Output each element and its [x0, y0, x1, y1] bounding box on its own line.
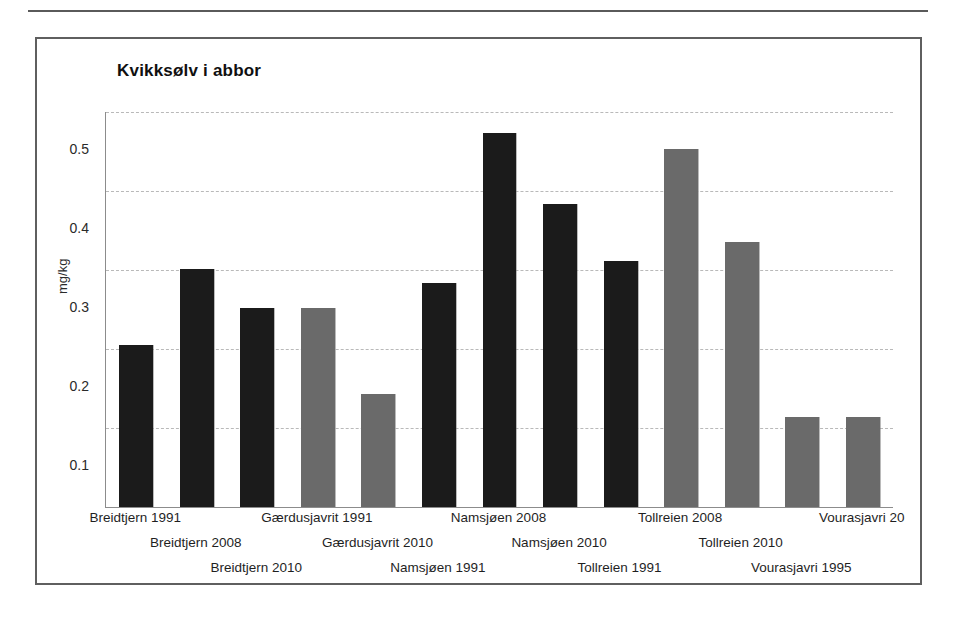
figure-frame: Kvikksølv i abbor 0.50.40.30.20.1 mg/kg …	[35, 37, 922, 585]
bar	[846, 417, 880, 507]
bar	[483, 133, 517, 507]
bar	[664, 149, 698, 507]
bar	[543, 204, 577, 507]
x-tick-label: Namsjøen 1991	[390, 560, 485, 575]
plot-area	[105, 112, 893, 508]
x-tick-label: Namsjøen 2008	[451, 510, 546, 525]
x-tick-label: Tollreien 1991	[578, 560, 662, 575]
bar	[180, 269, 214, 507]
y-axis-title: mg/kg	[55, 259, 70, 294]
bar	[785, 417, 819, 507]
y-tick-label: 0.2	[70, 378, 89, 394]
bar	[361, 394, 395, 507]
y-axis-tick-labels: 0.50.40.30.20.1	[37, 149, 97, 544]
x-tick-label: Breidtjern 2010	[211, 560, 303, 575]
x-tick-label: Namsjøen 2010	[511, 535, 606, 550]
bar	[725, 242, 759, 507]
bar	[301, 308, 335, 507]
bar	[119, 345, 153, 507]
x-tick-label: Gærdusjavrit 1991	[261, 510, 372, 525]
page-top-rule	[28, 10, 928, 12]
bar-series	[106, 112, 893, 507]
x-axis-category-labels: Breidtjern 1991Breidtjern 2008Breidtjern…	[37, 510, 920, 586]
bar	[604, 261, 638, 507]
y-tick-label: 0.3	[70, 299, 89, 315]
x-tick-label: Tollreien 2008	[638, 510, 722, 525]
bar	[422, 283, 456, 507]
y-tick-label: 0.1	[70, 457, 89, 473]
x-tick-label: Vourasjavri 20	[819, 510, 905, 525]
y-tick-label: 0.4	[70, 220, 89, 236]
x-tick-label: Breidtjern 2008	[150, 535, 242, 550]
y-tick-label: 0.5	[70, 141, 89, 157]
x-tick-label: Breidtjern 1991	[89, 510, 181, 525]
chart-title: Kvikksølv i abbor	[117, 61, 261, 81]
x-tick-label: Tollreien 2010	[699, 535, 783, 550]
bar	[240, 308, 274, 507]
x-tick-label: Gærdusjavrit 2010	[322, 535, 433, 550]
x-tick-label: Vourasjavri 1995	[751, 560, 852, 575]
